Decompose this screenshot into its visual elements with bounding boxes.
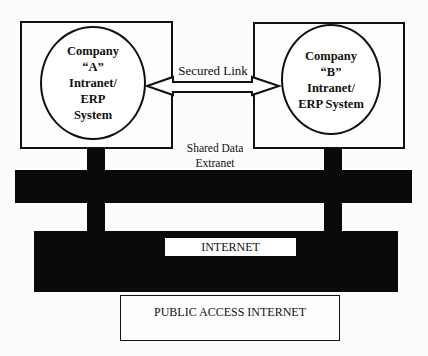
extranet-band (15, 170, 412, 203)
secured-link-label: Secured Link (170, 63, 256, 78)
extranet-label-line-2: Extranet (170, 156, 260, 171)
internet-label: INTERNET (165, 238, 296, 256)
extranet-label-line-1: Shared Data (170, 141, 260, 156)
public-access-internet-label: PUBLIC ACCESS INTERNET (154, 305, 306, 319)
extranet-label: Shared Data Extranet (170, 141, 260, 171)
public-access-internet-box: PUBLIC ACCESS INTERNET (120, 295, 340, 341)
